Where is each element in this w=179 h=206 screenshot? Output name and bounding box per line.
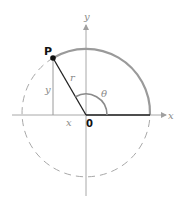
y-axis-label: y — [83, 11, 90, 22]
origin-label: 0 — [86, 118, 93, 129]
polar-angle-diagram: P r θ y x 0 x y — [0, 0, 179, 206]
radius-line — [53, 58, 86, 115]
y-leg-label: y — [44, 84, 51, 95]
point-p-label: P — [44, 45, 52, 58]
radius-label: r — [70, 72, 76, 83]
theta-label: θ — [101, 88, 107, 99]
x-axis-label: x — [168, 110, 174, 121]
x-leg-label: x — [66, 117, 72, 128]
